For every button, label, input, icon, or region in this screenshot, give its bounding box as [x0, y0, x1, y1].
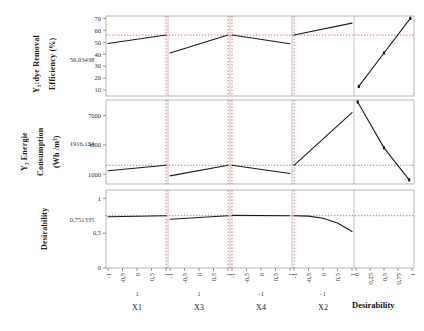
- x-tick-label: 0,5: [210, 273, 217, 281]
- svg-text:10: 10: [95, 86, 102, 93]
- factor-setting-x2: -1: [292, 290, 354, 298]
- x-tick-label: 0: [196, 273, 203, 276]
- factor-setting-x4: -1: [230, 290, 292, 298]
- svg-text:0,5: 0,5: [93, 229, 101, 236]
- svg-text:7000: 7000: [88, 112, 101, 119]
- row-value-y2: 1916,154: [58, 140, 106, 147]
- row-label-y1-b: Efficiency (%): [48, 16, 57, 112]
- factor-name-x2: X2: [292, 303, 354, 312]
- row-value-y1: 56,03438: [58, 56, 106, 63]
- row-label-y1-line2: Efficiency (%): [48, 16, 57, 112]
- row-label-y2-b: Consumption: [36, 108, 45, 196]
- svg-text:1000: 1000: [88, 171, 101, 178]
- row-label-desirability: Desirability: [40, 190, 49, 268]
- x-tick-label: -1: [167, 273, 174, 278]
- x-tick-label: 0,5: [272, 273, 279, 281]
- factor-name-x3: X3: [168, 303, 230, 312]
- optimization-plot: 7060504030201070004000100010,50: [0, 0, 424, 331]
- x-tick-label: 0,75: [395, 273, 402, 284]
- row-label-y2-c: (Wh /m³): [52, 108, 61, 196]
- row-label-y2-line3: (Wh /m³): [52, 108, 61, 196]
- factor-setting-x1: 1: [106, 290, 168, 298]
- svg-text:1: 1: [98, 195, 101, 202]
- x-tick-label: -0,5: [243, 273, 250, 283]
- factor-name-x1: X1: [106, 303, 168, 312]
- x-tick-label: -1: [291, 273, 298, 278]
- x-tick-label: 0,25: [367, 273, 374, 284]
- row-label-y2: Y₂ Energie: [20, 108, 29, 196]
- x-tick-label: 0: [320, 273, 327, 276]
- svg-text:70: 70: [95, 15, 102, 22]
- row-label-y2-line2: Consumption: [36, 108, 45, 196]
- x-tick-label: 1: [409, 273, 416, 276]
- x-tick-label: -0,5: [181, 273, 188, 283]
- svg-text:50: 50: [95, 39, 102, 46]
- svg-text:20: 20: [95, 74, 102, 81]
- x-tick-label: 0: [353, 273, 360, 276]
- x-tick-label: 0: [134, 273, 141, 276]
- factor-name-x4: X4: [230, 303, 292, 312]
- factor-setting-x3: 1: [168, 290, 230, 298]
- svg-text:0: 0: [98, 264, 101, 271]
- svg-text:30: 30: [95, 62, 102, 69]
- row-label-desirability-line1: Desirability: [40, 190, 49, 268]
- x-tick-label: 0,5: [381, 273, 388, 281]
- x-tick-label: -1: [105, 273, 112, 278]
- x-tick-label: -0,5: [305, 273, 312, 283]
- x-tick-label: 0: [258, 273, 265, 276]
- row-label-y1: Y₁:dye Removal: [32, 16, 41, 112]
- x-tick-label: -0,5: [119, 273, 126, 283]
- x-tick-label: 0,5: [334, 273, 341, 281]
- x-tick-label: -1: [229, 273, 236, 278]
- row-label-y2-line1: Y₂ Energie: [20, 108, 29, 196]
- x-tick-label: 0,5: [148, 273, 155, 281]
- desirability-column-label: Desirability: [352, 300, 395, 310]
- svg-text:60: 60: [95, 27, 102, 34]
- row-value-desirability: 0,751335: [58, 216, 106, 223]
- row-label-y1-line1: Y₁:dye Removal: [32, 16, 41, 112]
